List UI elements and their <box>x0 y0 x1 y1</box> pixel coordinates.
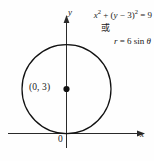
center-point-marker <box>63 86 69 92</box>
x-axis-label: x <box>140 130 144 139</box>
polar-equals-expression: = 6 sin <box>117 36 146 46</box>
cartesian-equals-nine: = 9 <box>138 10 152 20</box>
cartesian-equation: x2 + (y − 3)2 = 9 <box>70 9 154 22</box>
center-point-label: (0, 3) <box>29 83 50 93</box>
polar-var-theta: θ <box>147 36 151 46</box>
cartesian-minus-three: − 3) <box>118 10 135 20</box>
origin-label: 0 <box>58 135 63 145</box>
connector-word: 或 <box>70 22 154 35</box>
polar-equation: r = 6 sin θ <box>70 35 154 48</box>
math-figure-circle: y x 0 (0, 3) x2 + (y − 3)2 = 9 或 r = 6 s… <box>0 0 154 161</box>
cartesian-plus-open: + ( <box>101 10 114 20</box>
equation-block: x2 + (y − 3)2 = 9 或 r = 6 sin θ <box>70 9 154 48</box>
